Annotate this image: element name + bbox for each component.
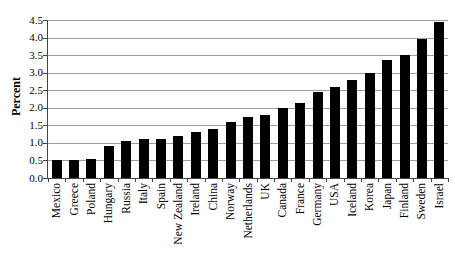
gridline bbox=[48, 55, 448, 56]
y-tick-label: 1.5 bbox=[1, 119, 43, 132]
x-category-label: Israel bbox=[433, 183, 446, 209]
x-category-label: Germany bbox=[311, 183, 324, 226]
x-axis-tick bbox=[378, 178, 379, 182]
x-axis-tick bbox=[205, 178, 206, 182]
bar bbox=[400, 55, 410, 178]
bar bbox=[226, 122, 236, 178]
x-category-label: Japan bbox=[381, 183, 394, 209]
x-axis-tick bbox=[100, 178, 101, 182]
y-tick-label: 4.0 bbox=[1, 31, 43, 44]
bar bbox=[243, 117, 253, 178]
x-axis-tick bbox=[274, 178, 275, 182]
y-tick-label: 4.5 bbox=[1, 14, 43, 27]
x-axis-tick bbox=[83, 178, 84, 182]
x-category-label: Finland bbox=[398, 183, 411, 218]
bar bbox=[173, 136, 183, 178]
bar bbox=[191, 132, 201, 178]
y-tick-label: 0.5 bbox=[1, 154, 43, 167]
x-axis-tick bbox=[344, 178, 345, 182]
x-axis-tick bbox=[187, 178, 188, 182]
bar bbox=[52, 160, 62, 178]
x-category-label: Canada bbox=[276, 183, 289, 217]
x-category-label: Korea bbox=[363, 183, 376, 211]
x-category-label: Sweden bbox=[415, 183, 428, 219]
x-category-label: Russia bbox=[120, 183, 133, 214]
bar bbox=[104, 146, 114, 178]
x-axis-tick bbox=[326, 178, 327, 182]
x-category-label: Iceland bbox=[346, 183, 359, 217]
bar bbox=[208, 129, 218, 178]
x-category-label: Netherlands bbox=[242, 183, 255, 239]
x-axis-tick bbox=[152, 178, 153, 182]
x-axis-tick bbox=[257, 178, 258, 182]
y-tick-label: 3.5 bbox=[1, 49, 43, 62]
x-axis-tick bbox=[239, 178, 240, 182]
bar bbox=[365, 73, 375, 178]
bar bbox=[86, 159, 96, 178]
x-category-label: Norway bbox=[224, 183, 237, 220]
x-category-label: Mexico bbox=[50, 183, 63, 218]
x-axis-tick bbox=[361, 178, 362, 182]
gridline bbox=[48, 20, 448, 21]
bar bbox=[139, 139, 149, 178]
x-axis-tick bbox=[170, 178, 171, 182]
x-category-label: France bbox=[294, 183, 307, 214]
bar bbox=[121, 141, 131, 178]
x-category-label: New Zealand bbox=[172, 183, 185, 245]
bar bbox=[434, 22, 444, 178]
x-category-label: Hungary bbox=[102, 183, 115, 223]
bar bbox=[382, 60, 392, 178]
x-axis-tick bbox=[396, 178, 397, 182]
x-axis-tick bbox=[309, 178, 310, 182]
x-axis-tick bbox=[431, 178, 432, 182]
y-tick-label: 3.0 bbox=[1, 66, 43, 79]
x-category-label: Poland bbox=[85, 183, 98, 215]
x-axis-line bbox=[47, 178, 448, 179]
x-category-label: Greece bbox=[68, 183, 81, 216]
x-category-label: USA bbox=[328, 183, 341, 206]
gridline bbox=[48, 38, 448, 39]
x-axis-tick bbox=[222, 178, 223, 182]
bar bbox=[417, 39, 427, 178]
bar bbox=[313, 92, 323, 178]
y-axis-line bbox=[47, 20, 48, 179]
y-tick-label: 0.0 bbox=[1, 172, 43, 185]
y-tick-label: 2.0 bbox=[1, 101, 43, 114]
x-axis-tick bbox=[291, 178, 292, 182]
x-axis-tick bbox=[413, 178, 414, 182]
x-category-label: China bbox=[207, 183, 220, 210]
y-tick-label: 1.0 bbox=[1, 136, 43, 149]
x-axis-tick bbox=[65, 178, 66, 182]
bar bbox=[330, 87, 340, 178]
bar-chart: Percent 0.00.51.01.52.02.53.03.54.04.5Me… bbox=[0, 0, 455, 261]
bar bbox=[156, 139, 166, 178]
x-axis-tick bbox=[118, 178, 119, 182]
bar bbox=[347, 80, 357, 178]
x-category-label: Ireland bbox=[189, 183, 202, 216]
x-axis-tick bbox=[135, 178, 136, 182]
bar bbox=[295, 103, 305, 178]
bar bbox=[278, 108, 288, 178]
x-category-label: UK bbox=[259, 183, 272, 200]
x-axis-tick bbox=[448, 178, 449, 182]
x-axis-tick bbox=[48, 178, 49, 182]
y-tick-label: 2.5 bbox=[1, 84, 43, 97]
x-category-label: Italy bbox=[137, 183, 150, 204]
x-category-label: Spain bbox=[155, 183, 168, 209]
bar bbox=[260, 115, 270, 178]
bar bbox=[69, 160, 79, 178]
